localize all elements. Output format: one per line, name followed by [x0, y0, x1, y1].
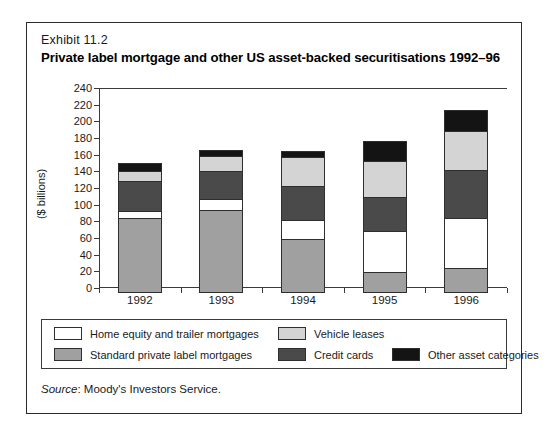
bar-segment [444, 110, 488, 131]
bar-segment [363, 272, 407, 293]
y-axis-tick-mark [94, 155, 99, 156]
x-axis-tick-mark [181, 288, 182, 293]
bar-segment [444, 268, 488, 293]
x-axis-tick-label: 1992 [127, 294, 153, 306]
bar-segment [281, 239, 325, 293]
source-text: : Moody's Investors Service. [77, 383, 220, 395]
y-axis-tick-mark [94, 255, 99, 256]
legend-label: Other asset categories [428, 349, 539, 361]
bar-stack-1993[interactable] [199, 150, 243, 293]
bar-stack-1996[interactable] [444, 110, 488, 293]
source-label: Source [41, 383, 77, 395]
x-axis-tick-mark [425, 288, 426, 293]
bar-segment [363, 231, 407, 273]
legend-label: Home equity and trailer mortgages [90, 328, 259, 340]
legend-item[interactable]: Credit cards [278, 348, 373, 361]
y-axis-tick-mark [94, 205, 99, 206]
legend-item[interactable]: Home equity and trailer mortgages [54, 327, 259, 340]
x-axis-tick-label: 1995 [372, 294, 398, 306]
bar-segment [199, 156, 243, 171]
bar-segment [363, 141, 407, 161]
y-axis-tick-mark [94, 121, 99, 122]
y-axis-tick-mark [94, 88, 99, 89]
legend-label: Standard private label mortgages [90, 349, 252, 361]
legend-label: Vehicle leases [314, 328, 384, 340]
y-axis-tick-mark [94, 238, 99, 239]
bar-segment [444, 218, 488, 268]
y-axis-tick-mark [94, 271, 99, 272]
chart-plot-area: ($ billions) 020406080100120140160180200… [99, 88, 507, 293]
legend-item[interactable]: Other asset categories [392, 348, 539, 361]
bar-stack-1994[interactable] [281, 151, 325, 293]
legend-swatch [392, 348, 420, 361]
y-axis-tick-mark [94, 171, 99, 172]
bar-segment [199, 210, 243, 293]
bar-segment [199, 171, 243, 199]
bar-segment [281, 186, 325, 219]
y-axis-title: ($ billions) [35, 134, 47, 254]
bar-segment [118, 163, 162, 171]
bar-segment [363, 161, 407, 197]
legend-swatch [54, 348, 82, 361]
exhibit-number: Exhibit 11.2 [41, 33, 108, 47]
chart-title: Private label mortgage and other US asse… [41, 50, 500, 65]
legend-item[interactable]: Standard private label mortgages [54, 348, 252, 361]
bar-stack-1995[interactable] [363, 141, 407, 293]
legend-swatch [278, 327, 306, 340]
bar-segment [281, 157, 325, 186]
bar-segment [118, 181, 162, 212]
bar-segment [444, 131, 488, 170]
source-note: Source: Moody's Investors Service. [41, 383, 221, 395]
y-axis-tick-mark [94, 105, 99, 106]
legend-swatch [278, 348, 306, 361]
legend-label: Credit cards [314, 349, 373, 361]
x-axis-tick-mark [262, 288, 263, 293]
y-axis-tick-mark [94, 138, 99, 139]
y-axis-tick-mark [94, 221, 99, 222]
legend-swatch [54, 327, 82, 340]
bar-segment [281, 220, 325, 239]
bar-segment [363, 197, 407, 230]
x-axis-tick-mark [344, 288, 345, 293]
bar-segment [444, 170, 488, 218]
x-axis-tick-label: 1996 [453, 294, 479, 306]
bar-segment [118, 218, 162, 293]
y-axis-tick-mark [94, 188, 99, 189]
x-axis-tick-mark [99, 288, 100, 293]
x-axis-tick-label: 1993 [209, 294, 235, 306]
chart-legend: Home equity and trailer mortgagesVehicle… [41, 319, 507, 369]
bar-stack-1992[interactable] [118, 163, 162, 293]
legend-item[interactable]: Vehicle leases [278, 327, 384, 340]
exhibit-frame: Exhibit 11.2 Private label mortgage and … [26, 22, 522, 414]
x-axis-tick-label: 1994 [290, 294, 316, 306]
x-axis-tick-mark [507, 288, 508, 293]
bar-segment [118, 171, 162, 180]
bar-segment [118, 211, 162, 218]
bar-segment [199, 199, 243, 210]
